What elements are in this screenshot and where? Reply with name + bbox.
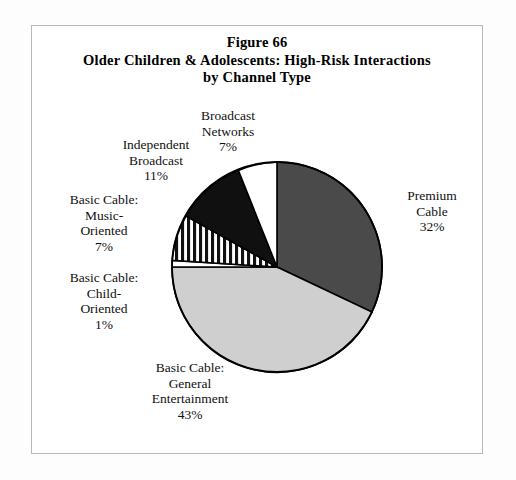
- pie-label-music-oriented-line-2: Music-: [42, 208, 166, 224]
- pie-label-general-entertainment: Basic Cable: General Entertainment 43%: [110, 360, 270, 422]
- pie-label-independent-broadcast-line-1: Independent: [96, 137, 216, 153]
- pie-label-music-oriented-line-3: Oriented: [42, 223, 166, 239]
- pie-label-music-oriented-pct: 7%: [42, 239, 166, 255]
- pie-label-premium-cable: Premium Cable 32%: [378, 188, 486, 235]
- pie-label-child-oriented-line-1: Basic Cable:: [42, 270, 166, 286]
- pie-label-premium-cable-line-1: Premium: [378, 188, 486, 204]
- pie-label-child-oriented-pct: 1%: [42, 317, 166, 333]
- pie-label-general-entertainment-line-3: Entertainment: [110, 391, 270, 407]
- pie-label-independent-broadcast: Independent Broadcast 11%: [96, 137, 216, 184]
- pie-label-broadcast-networks-line-1: Broadcast: [168, 108, 288, 124]
- pie-label-child-oriented: Basic Cable: Child- Oriented 1%: [42, 270, 166, 332]
- pie-label-general-entertainment-line-1: Basic Cable:: [110, 360, 270, 376]
- pie-label-independent-broadcast-pct: 11%: [96, 168, 216, 184]
- pie-label-music-oriented: Basic Cable: Music- Oriented 7%: [42, 192, 166, 254]
- pie-label-general-entertainment-pct: 43%: [110, 407, 270, 423]
- pie-label-premium-cable-pct: 32%: [378, 219, 486, 235]
- pie-label-independent-broadcast-line-2: Broadcast: [96, 153, 216, 169]
- pie-label-general-entertainment-line-2: General: [110, 376, 270, 392]
- pie-label-child-oriented-line-3: Oriented: [42, 301, 166, 317]
- pie-label-music-oriented-line-1: Basic Cable:: [42, 192, 166, 208]
- pie-label-premium-cable-line-2: Cable: [378, 204, 486, 220]
- pie-label-child-oriented-line-2: Child-: [42, 286, 166, 302]
